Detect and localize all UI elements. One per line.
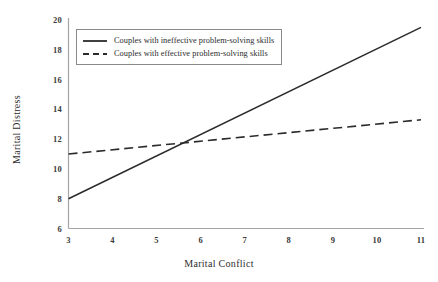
x-tick-label: 7	[243, 235, 247, 245]
y-tick-label: 16	[40, 75, 62, 85]
y-tick-label: 6	[40, 224, 62, 234]
y-tick-label: 14	[40, 104, 62, 114]
series-line-effective	[69, 120, 422, 154]
y-tick-label: 20	[40, 15, 62, 25]
x-tick-label: 6	[198, 235, 202, 245]
x-tick-label: 11	[417, 235, 425, 245]
x-tick-label: 5	[154, 235, 158, 245]
legend-item-effective: Couples with effective problem-solving s…	[82, 47, 274, 60]
chart-legend: Couples with ineffective problem-solving…	[76, 29, 282, 65]
x-tick-label: 8	[287, 235, 291, 245]
legend-label-effective: Couples with effective problem-solving s…	[114, 49, 268, 58]
x-tick-label: 4	[110, 235, 114, 245]
y-tick-label: 18	[40, 45, 62, 55]
y-tick-label: 12	[40, 134, 62, 144]
legend-dashed-line-icon	[82, 49, 108, 59]
legend-item-ineffective: Couples with ineffective problem-solving…	[82, 34, 274, 47]
x-axis-title: Marital Conflict	[0, 258, 438, 269]
legend-label-ineffective: Couples with ineffective problem-solving…	[114, 36, 274, 45]
legend-solid-line-icon	[82, 36, 108, 46]
x-tick-label: 9	[331, 235, 335, 245]
chart-figure: 68101214161820 34567891011 Marital Distr…	[0, 0, 438, 282]
y-axis-title: Marital Distress	[11, 70, 22, 190]
y-tick-label: 10	[40, 164, 62, 174]
x-tick-label: 3	[66, 235, 70, 245]
x-tick-label: 10	[372, 235, 381, 245]
y-tick-label: 8	[40, 194, 62, 204]
